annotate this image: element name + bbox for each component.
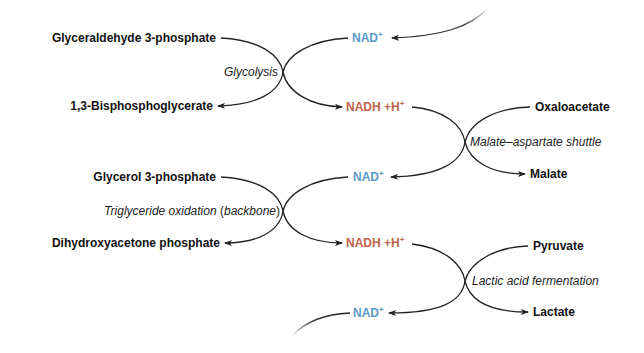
pyruvate-label: Pyruvate [533, 239, 584, 253]
charge-superscript: + [378, 30, 383, 39]
lactate-label: Lactate [533, 305, 575, 319]
nad-label-top: NAD+ [352, 31, 383, 45]
glycerol-3-phosphate-label: Glycerol 3-phosphate [93, 170, 216, 184]
lactic-nad-arc [389, 281, 465, 313]
charge-superscript: + [400, 235, 405, 244]
triglyceride-oxidation-label: Triglyceride oxidation (backbone) [104, 204, 280, 218]
bisphosphoglycerate-label: 1,3-Bisphosphoglycerate [70, 99, 213, 113]
charge-superscript: + [379, 169, 384, 178]
triglyceride-oxidation-text: Triglyceride oxidation [104, 204, 217, 218]
glyceraldehyde-3-phosphate-label: Glyceraldehyde 3-phosphate [52, 31, 216, 45]
outgoing-nad-curve [292, 313, 350, 336]
nadh-text: NADH +H [346, 100, 400, 114]
oxaloacetate-label: Oxaloacetate [535, 100, 610, 114]
nadh-label-bottom: NADH +H+ [346, 236, 404, 250]
glycolysis-nad-arc [283, 38, 348, 72]
shuttle-nadh-arc [412, 107, 465, 142]
shuttle-nad-arc [391, 142, 465, 177]
lactic-nadh-arc [412, 244, 465, 281]
lactic-acid-fermentation-label: Lactic acid fermentation [472, 274, 599, 288]
nad-text: NAD [353, 306, 379, 320]
malate-aspartate-shuttle-label: Malate–aspartate shuttle [470, 135, 601, 149]
nad-label-bottom: NAD+ [353, 306, 384, 320]
dihydroxyacetone-phosphate-label: Dihydroxyacetone phosphate [52, 236, 220, 250]
glycolysis-process-label: Glycolysis [224, 65, 278, 79]
nad-text: NAD [353, 170, 379, 184]
nadh-text: NADH +H [346, 236, 400, 250]
triglyceride-nad-arc [283, 177, 348, 211]
triglyceride-nadh-arc [283, 211, 342, 243]
nad-label-middle: NAD+ [353, 170, 384, 184]
nadh-label-top: NADH +H+ [346, 100, 404, 114]
nad-text: NAD [352, 31, 378, 45]
incoming-nad-curve [392, 8, 488, 38]
backbone-text: backbone [224, 204, 276, 218]
charge-superscript: + [400, 99, 405, 108]
malate-label: Malate [530, 167, 567, 181]
glycolysis-nadh-arc [283, 72, 342, 107]
paren-close: ) [276, 204, 280, 218]
charge-superscript: + [379, 305, 384, 314]
